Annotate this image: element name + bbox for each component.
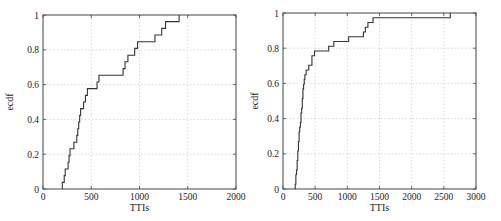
x-tick-label: 0	[41, 192, 46, 202]
y-tick-label: 0	[34, 185, 39, 195]
x-tick-label: 500	[84, 192, 99, 202]
x-tick-label: 1500	[370, 192, 389, 202]
x-tick-label: 2000	[402, 192, 421, 202]
y-tick-label: 1	[274, 9, 279, 19]
y-tick-label: 0.8	[27, 45, 39, 55]
x-tick-label: 2500	[434, 192, 453, 202]
x-tick-label: 0	[281, 192, 286, 202]
x-tick-label: 500	[308, 192, 323, 202]
y-tick-label: 0.2	[267, 149, 279, 159]
y-tick-label: 0.6	[267, 79, 279, 89]
x-tick-label: 1000	[338, 192, 357, 202]
x-axis-label: TTIs	[130, 202, 150, 213]
y-tick-label: 0.2	[27, 150, 39, 160]
x-tick-label: 2000	[227, 192, 246, 202]
x-axis-label: TTIs	[370, 202, 390, 213]
ecdf-step-line	[295, 13, 450, 189]
y-tick-label: 0.8	[267, 44, 279, 54]
y-tick-label: 0.6	[27, 80, 39, 90]
ecdf-step-line	[62, 15, 179, 189]
x-tick-label: 3000	[467, 192, 486, 202]
y-tick-label: 0	[274, 185, 279, 195]
y-tick-label: 0.4	[27, 115, 39, 125]
x-tick-label: 1500	[178, 192, 197, 202]
y-tick-label: 0.4	[267, 114, 279, 124]
ecdf-chart-right: 05001000150020002500300000.20.40.60.81TT…	[249, 9, 486, 214]
x-tick-label: 1000	[130, 192, 149, 202]
ecdf-chart-left: 050010001500200000.20.40.60.81TTIsecdf	[4, 11, 246, 214]
figure: 050010001500200000.20.40.60.81TTIsecdf 0…	[0, 0, 501, 221]
y-axis-label: ecdf	[249, 92, 260, 110]
y-axis-label: ecdf	[4, 93, 15, 111]
y-tick-label: 1	[34, 11, 39, 21]
